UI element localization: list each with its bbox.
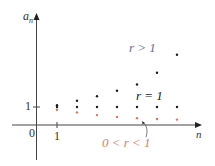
data-point [156,72,158,74]
data-point [176,106,178,108]
data-point [56,106,58,108]
data-point [156,106,158,108]
x-axis-label: n [196,129,202,140]
data-point [136,117,138,119]
x-tick-label-1: 1 [54,130,60,142]
data-point [76,100,78,102]
data-point [96,95,98,97]
data-point [176,118,178,120]
data-point [176,54,178,56]
series-label-r-lt-1: 0 < r < 1 [102,136,151,149]
data-point [56,109,58,111]
data-point [156,118,158,120]
data-point [76,106,78,108]
y-axis-label-sub: n [29,16,33,25]
series-label-r-gt-1: r > 1 [129,41,156,54]
data-point [96,106,98,108]
y-tick-label-1: 1 [25,100,31,112]
origin-label: 0 [29,127,35,139]
data-point [116,90,118,92]
data-point [116,106,118,108]
data-point [76,111,78,113]
series-label-r-eq-1: r = 1 [136,89,163,102]
data-point [116,116,118,118]
data-point [136,106,138,108]
y-axis-label: an [23,10,33,25]
data-point [136,83,138,85]
data-point [96,114,98,116]
y-axis-arrow-icon [34,13,40,20]
